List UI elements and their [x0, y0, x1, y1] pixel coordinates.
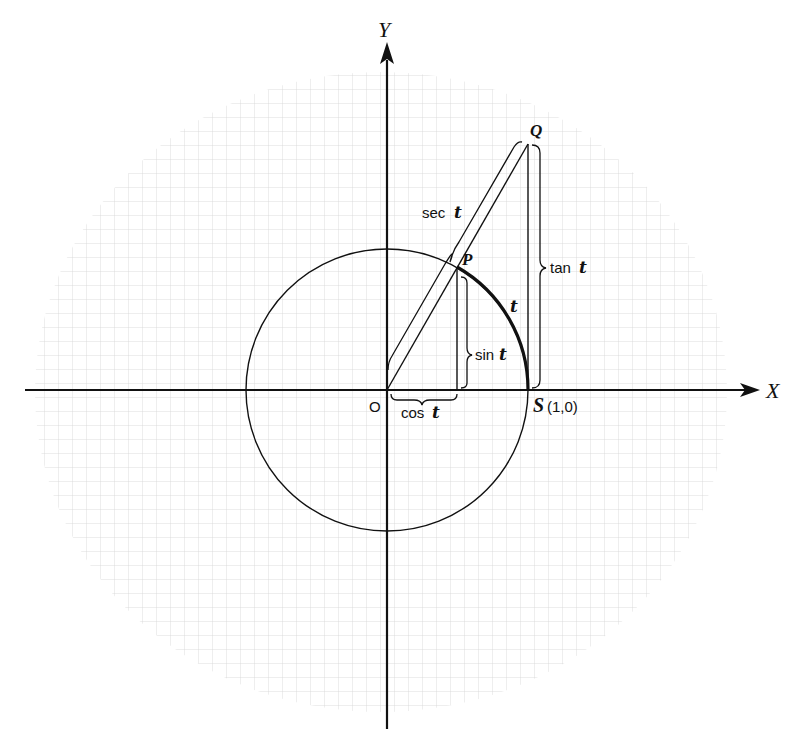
- svg-text:sin: sin: [475, 346, 494, 363]
- unit-circle-diagram: Y X O Q P S (1,0) sec t tan t sin t cos …: [0, 0, 804, 749]
- point-S-label: S (1,0): [533, 394, 578, 416]
- svg-text:t: t: [454, 202, 462, 222]
- svg-text:cos: cos: [401, 404, 424, 421]
- x-axis-label: X: [765, 378, 781, 403]
- svg-text:S: S: [533, 394, 544, 416]
- svg-text:t: t: [579, 257, 587, 277]
- svg-text:t: t: [432, 402, 440, 422]
- point-Q-label: Q: [530, 121, 542, 140]
- sec-label: sec t: [422, 202, 462, 222]
- cos-label: cos t: [401, 402, 440, 422]
- graph-paper-grid: [0, 0, 804, 749]
- point-P-label: P: [461, 250, 473, 269]
- sin-label: sin t: [475, 344, 507, 364]
- y-axis-label: Y: [378, 17, 393, 42]
- tan-label: tan t: [550, 257, 587, 277]
- arc-t-label: t: [510, 296, 518, 316]
- svg-text:sec: sec: [422, 204, 446, 221]
- origin-label: O: [369, 398, 381, 415]
- svg-text:tan: tan: [550, 259, 571, 276]
- svg-text:t: t: [499, 344, 507, 364]
- svg-text:(1,0): (1,0): [547, 398, 578, 415]
